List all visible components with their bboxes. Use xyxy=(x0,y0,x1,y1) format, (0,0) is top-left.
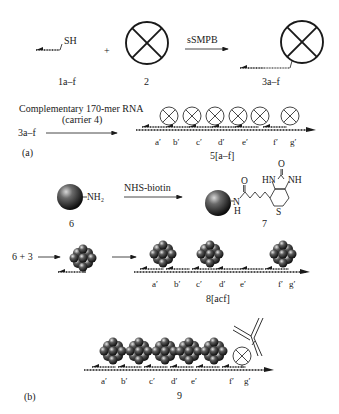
svg-text:c′: c′ xyxy=(196,279,202,289)
scheme-figure: SH + sSMPB 1a–f 2 3a–f Complementary 170… xyxy=(0,0,339,414)
svg-text:d′: d′ xyxy=(218,137,225,147)
label-6: 6 xyxy=(69,218,74,229)
conjugate-6-3 xyxy=(58,245,97,273)
svg-text:e′: e′ xyxy=(191,376,197,386)
thiol-group-label: SH xyxy=(64,35,77,46)
panel-b-label: (b) xyxy=(24,391,36,403)
svg-text:HN: HN xyxy=(262,175,276,185)
svg-text:d′: d′ xyxy=(219,279,226,289)
label-1a-f: 1a–f xyxy=(58,76,76,87)
hybridized-conjugates-5 xyxy=(142,107,299,127)
svg-text:a′: a′ xyxy=(155,137,161,147)
svg-text:f′: f′ xyxy=(273,137,278,147)
svg-text:S: S xyxy=(276,207,281,217)
svg-text:g′: g′ xyxy=(289,279,296,289)
reagent-nhs-biotin: NHS-biotin xyxy=(124,182,171,193)
reactant-1-oligo xyxy=(36,44,62,50)
product-3-oligo xyxy=(240,61,292,68)
positions-8: a′ b′ c′ d′ e′ f′ g′ xyxy=(152,279,296,289)
svg-text:f′: f′ xyxy=(229,376,234,386)
svg-text:a′: a′ xyxy=(101,376,107,386)
svg-text:O: O xyxy=(241,176,248,186)
svg-text:b′: b′ xyxy=(173,137,180,147)
svg-text:b′: b′ xyxy=(174,279,181,289)
positions-5: a′ b′ c′ d′ e′ f′ g′ xyxy=(155,137,297,147)
biotinylated-bead-7: N H O O HN NH S xyxy=(205,159,302,217)
svg-text:c′: c′ xyxy=(196,137,202,147)
label-7: 7 xyxy=(262,218,267,229)
carrier-rna-strand-8 xyxy=(134,269,310,274)
svg-text:b′: b′ xyxy=(121,376,128,386)
svg-text:H: H xyxy=(234,206,241,216)
svg-text:e′: e′ xyxy=(242,137,248,147)
svg-text:d′: d′ xyxy=(171,376,178,386)
reagent-rna-line1: Complementary 170-mer RNA xyxy=(19,103,144,114)
protein-2-icon xyxy=(126,22,168,64)
reagent-rna-line2: (carrier 4) xyxy=(62,114,102,126)
label-3a-f: 3a–f xyxy=(262,76,280,87)
svg-text:e′: e′ xyxy=(240,279,246,289)
label-9: 9 xyxy=(177,390,182,401)
svg-text:O: O xyxy=(278,159,285,169)
svg-text:f′: f′ xyxy=(278,279,283,289)
svg-text:g′: g′ xyxy=(244,376,251,386)
label-5a-f: 5[a–f] xyxy=(210,150,234,161)
svg-text:g′: g′ xyxy=(290,137,297,147)
label-3a-f-start: 3a–f xyxy=(18,127,36,138)
bead-6-icon xyxy=(57,184,83,210)
amine-group-label: NH₂ xyxy=(87,192,104,202)
plus-sign: + xyxy=(104,45,110,56)
hybridized-conjugates-9 xyxy=(92,338,251,369)
label-2: 2 xyxy=(144,76,149,87)
positions-9: a′ b′ c′ d′ e′ f′ g′ xyxy=(101,376,251,386)
label-6-plus-3: 6 + 3 xyxy=(12,251,33,262)
protein-2-conjugated-icon xyxy=(281,21,323,63)
svg-text:a′: a′ xyxy=(152,279,158,289)
svg-text:c′: c′ xyxy=(149,376,155,386)
panel-a-label: (a) xyxy=(22,147,33,159)
reagent-ssmpb: sSMPB xyxy=(187,34,218,45)
svg-text:NH: NH xyxy=(288,175,302,185)
label-8acf: 8[acf] xyxy=(206,293,230,304)
hybridized-conjugates-8 xyxy=(140,241,297,270)
